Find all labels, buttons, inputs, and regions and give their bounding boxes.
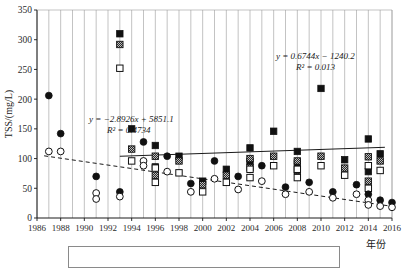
marker-filled-circle xyxy=(93,173,100,180)
x-tick-label: 2012 xyxy=(336,223,354,233)
legend-box xyxy=(68,246,340,268)
y-tick-label: 50 xyxy=(23,184,33,194)
marker-filled-circle xyxy=(282,184,289,191)
marker-filled-circle xyxy=(211,158,218,165)
marker-hatched-square xyxy=(318,153,324,159)
marker-filled-square xyxy=(318,85,324,91)
marker-open-square xyxy=(128,158,134,164)
marker-open-square xyxy=(117,65,123,71)
marker-hatched-square xyxy=(365,154,371,160)
marker-filled-circle xyxy=(353,181,360,188)
marker-filled-square xyxy=(377,151,383,157)
marker-open-square xyxy=(223,179,229,185)
equation-2-text: y = 0.6744x − 1240.2 xyxy=(275,51,355,61)
marker-hatched-square xyxy=(294,158,300,164)
marker-hatched-square xyxy=(270,153,276,159)
marker-filled-square xyxy=(270,128,276,134)
marker-hatched-square xyxy=(365,178,371,184)
marker-open-square xyxy=(294,166,300,172)
marker-open-square xyxy=(152,165,158,171)
marker-hatched-square xyxy=(199,182,205,188)
equation-1-text: y = −2.8926x + 5851.1 xyxy=(88,114,174,124)
y-tick-label: 350 xyxy=(18,5,33,15)
marker-open-circle xyxy=(282,191,289,198)
marker-open-circle xyxy=(187,188,194,195)
marker-hatched-square xyxy=(341,165,347,171)
equation-1-r2: R² = 0.4734 xyxy=(106,125,151,135)
marker-filled-circle xyxy=(140,139,147,146)
marker-open-square xyxy=(377,167,383,173)
marker-open-circle xyxy=(164,168,171,175)
y-tick-label: 250 xyxy=(18,65,33,75)
x-tick-label: 2000 xyxy=(194,223,213,233)
marker-open-circle xyxy=(377,203,384,210)
x-tick-label: 2010 xyxy=(312,223,331,233)
x-tick-label: 1986 xyxy=(28,223,47,233)
marker-hatched-square xyxy=(117,41,123,47)
marker-filled-circle xyxy=(187,180,194,187)
marker-open-square xyxy=(247,174,253,180)
marker-open-square xyxy=(365,163,371,169)
equation-2-r2: R² = 0.013 xyxy=(295,62,336,72)
y-axis-title: TSS/(mg/L) xyxy=(3,90,15,138)
x-tick-label: 1998 xyxy=(170,223,189,233)
x-tick-label: 2006 xyxy=(265,223,284,233)
x-axis-ticks: 1986198819901992199419961998200020022004… xyxy=(28,218,402,233)
marker-open-circle xyxy=(365,202,372,209)
marker-filled-circle xyxy=(164,153,171,160)
marker-hatched-square xyxy=(247,155,253,161)
marker-filled-circle xyxy=(258,162,265,169)
marker-open-square xyxy=(318,163,324,169)
marker-filled-square xyxy=(294,148,300,154)
marker-open-square xyxy=(270,163,276,169)
marker-open-circle xyxy=(93,196,100,203)
marker-hatched-square xyxy=(223,172,229,178)
x-axis-title: 年份 xyxy=(366,238,386,250)
marker-filled-circle xyxy=(45,92,52,99)
y-axis-ticks: 050100150200250300350 xyxy=(18,5,37,223)
marker-open-square xyxy=(152,179,158,185)
marker-filled-square xyxy=(223,166,229,172)
marker-hatched-square xyxy=(377,158,383,164)
marker-filled-square xyxy=(341,157,347,163)
marker-open-circle xyxy=(45,148,52,155)
marker-open-square xyxy=(341,172,347,178)
marker-open-circle xyxy=(306,188,313,195)
marker-filled-square xyxy=(117,31,123,37)
y-tick-label: 200 xyxy=(18,95,33,105)
marker-open-circle xyxy=(353,191,360,198)
x-tick-label: 2014 xyxy=(359,223,378,233)
x-tick-label: 1988 xyxy=(52,223,71,233)
x-tick-label: 2004 xyxy=(241,223,260,233)
marker-open-circle xyxy=(389,204,396,211)
marker-filled-square xyxy=(247,145,253,151)
marker-hatched-square xyxy=(128,146,134,152)
marker-open-circle xyxy=(57,148,64,155)
x-tick-label: 2016 xyxy=(383,223,402,233)
marker-open-square xyxy=(294,174,300,180)
y-tick-label: 150 xyxy=(18,124,33,134)
marker-open-square xyxy=(176,170,182,176)
marker-hatched-square xyxy=(152,172,158,178)
marker-open-circle xyxy=(258,178,265,185)
x-tick-label: 1994 xyxy=(123,223,142,233)
y-tick-label: 300 xyxy=(18,35,33,45)
marker-filled-square xyxy=(365,168,371,174)
annotations: y = −2.8926x + 5851.1R² = 0.4734y = 0.67… xyxy=(88,51,355,135)
x-tick-label: 2002 xyxy=(217,223,235,233)
marker-open-circle xyxy=(235,186,242,193)
marker-open-square xyxy=(199,189,205,195)
marker-filled-circle xyxy=(306,179,313,186)
y-tick-label: 0 xyxy=(27,213,32,223)
marker-hatched-square xyxy=(176,158,182,164)
marker-open-circle xyxy=(116,193,123,200)
marker-filled-square xyxy=(152,142,158,148)
marker-filled-circle xyxy=(57,130,64,137)
marker-hatched-square xyxy=(152,153,158,159)
marker-open-circle xyxy=(140,162,147,169)
x-tick-label: 2008 xyxy=(288,223,307,233)
y-tick-label: 100 xyxy=(18,154,33,164)
marker-open-circle xyxy=(329,194,336,201)
